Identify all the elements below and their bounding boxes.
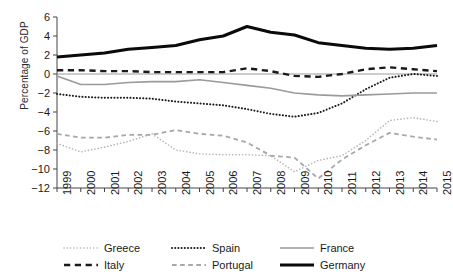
legend-item-france: France <box>279 242 387 254</box>
x-tick-label: 2001 <box>109 171 121 195</box>
legend-label: France <box>320 242 354 254</box>
x-tick-label: 2004 <box>180 171 192 195</box>
x-tick-label: 1999 <box>61 171 73 195</box>
x-tick-label: 2012 <box>370 171 382 195</box>
x-tick-label: 2000 <box>85 171 97 195</box>
x-tick-label: 2009 <box>299 171 311 195</box>
legend-label: Italy <box>104 259 124 271</box>
legend-swatch-greece-icon <box>63 243 99 253</box>
x-tick-label: 2010 <box>322 171 334 195</box>
x-tick-label: 2011 <box>346 171 358 195</box>
legend-swatch-germany-icon <box>279 260 315 270</box>
legend-swatch-italy-icon <box>63 260 99 270</box>
x-tick-label: 2002 <box>132 171 144 195</box>
legend-row-2: ItalyPortugalGermany <box>0 257 450 272</box>
legend-item-greece: Greece <box>63 242 171 254</box>
legend-swatch-spain-icon <box>171 243 207 253</box>
legend-swatch-portugal-icon <box>171 260 207 270</box>
x-tick-label: 2008 <box>275 171 287 195</box>
legend-label: Portugal <box>212 259 253 271</box>
x-tick-label: 2013 <box>394 171 406 195</box>
x-tick-label: 2003 <box>156 171 168 195</box>
legend-label: Germany <box>320 259 365 271</box>
legend-item-germany: Germany <box>279 259 387 271</box>
x-tick-label: 2014 <box>417 171 429 195</box>
x-tick-label: 2015 <box>441 171 453 195</box>
legend-label: Greece <box>104 242 140 254</box>
legend-item-portugal: Portugal <box>171 259 279 271</box>
x-tick-label: 2006 <box>227 171 239 195</box>
legend-row-1: GreeceSpainFrance <box>0 240 450 255</box>
x-tick-label: 2007 <box>251 171 263 195</box>
legend-swatch-france-icon <box>279 243 315 253</box>
legend-item-italy: Italy <box>63 259 171 271</box>
chart-legend: GreeceSpainFrance ItalyPortugalGermany <box>0 240 450 276</box>
legend-item-spain: Spain <box>171 242 279 254</box>
x-tick-label: 2005 <box>204 171 216 195</box>
legend-label: Spain <box>212 242 240 254</box>
